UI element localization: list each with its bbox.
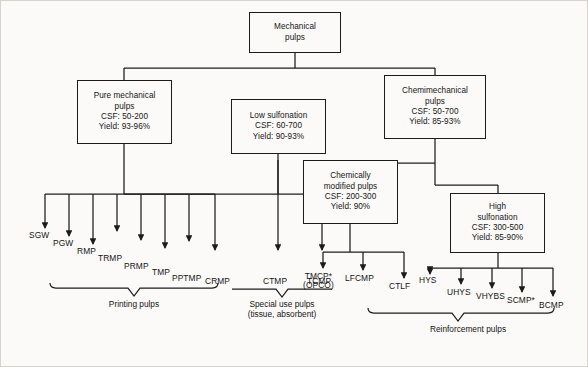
leaf-bcmp: BCMP (539, 301, 564, 311)
leaf-trmp: TRMP (98, 254, 122, 264)
node-chemically-modified-pulps: Chemically modified pulps CSF: 200-300 Y… (303, 160, 398, 224)
node-chemimechanical-line1: Chemimechanical (402, 86, 468, 96)
leaf-tmp: TMP (152, 268, 170, 278)
node-high-sulfonation: High sulfonation CSF: 300-500 Yield: 85-… (450, 193, 545, 253)
caption-special-use-line2: (tissue, absorbent) (248, 309, 317, 319)
caption-reinforcement-pulps: Reinforcement pulps (418, 324, 518, 334)
node-pure-mechanical-yield: Yield: 93-96% (99, 122, 150, 132)
figure-canvas: Mechanical pulps Pure mechanical pulps C… (0, 0, 588, 367)
leaf-tmcp-opco: TMCP* (OPCO) (303, 272, 334, 290)
leaf-ctlf: CTLF (389, 282, 410, 292)
node-pure-mechanical-line1: Pure mechanical (94, 91, 156, 101)
node-pure-mechanical-pulps: Pure mechanical pulps CSF: 50-200 Yield:… (77, 80, 172, 144)
node-pure-mechanical-line2: pulps (115, 102, 135, 112)
node-chemimechanical-pulps: Chemimechanical pulps CSF: 50-700 Yield:… (384, 75, 486, 139)
leaf-lfcmp: LFCMP (345, 274, 374, 284)
leaf-prmp: PRMP (124, 262, 149, 272)
node-chemically-modified-line2: modified pulps (324, 182, 378, 192)
leaf-tmcp-sublabel: (OPCO) (303, 280, 334, 290)
node-high-sulfonation-csf: CSF: 300-500 (472, 223, 524, 233)
node-chemimechanical-line2: pulps (425, 97, 445, 107)
node-chemimechanical-csf: CSF: 50-700 (412, 107, 459, 117)
node-high-sulfonation-line2: sulfonation (477, 213, 517, 223)
leaf-vhybs: VHYBS (476, 292, 505, 302)
leaf-sgw: SGW (29, 231, 49, 241)
node-low-sulfonation-yield: Yield: 90-93% (253, 132, 304, 142)
leaf-crmp: CRMP (205, 277, 230, 287)
node-mechanical-pulps-line1: Mechanical (274, 22, 316, 32)
node-low-sulfonation-csf: CSF: 60-700 (255, 121, 302, 131)
leaf-ctmp: CTMP (263, 277, 287, 287)
leaf-pgw: PGW (53, 239, 73, 249)
node-pure-mechanical-csf: CSF: 50-200 (101, 112, 148, 122)
leaf-scmp: SCMP* (507, 296, 535, 306)
leaf-pptmp: PPTMP (172, 274, 201, 284)
node-chemimechanical-yield: Yield: 85-93% (409, 117, 460, 127)
leaf-rmp: RMP (77, 247, 96, 257)
leaf-hys: HYS (419, 276, 437, 286)
caption-printing-pulps: Printing pulps (94, 299, 174, 309)
node-high-sulfonation-line1: High (489, 202, 506, 212)
caption-special-use-pulps: Special use pulps (tissue, absorbent) (232, 299, 332, 319)
node-chemically-modified-yield: Yield: 90% (331, 202, 370, 212)
leaf-uhys: UHYS (447, 288, 471, 298)
node-mechanical-pulps: Mechanical pulps (249, 12, 341, 53)
node-chemically-modified-csf: CSF: 200-300 (325, 192, 377, 202)
node-low-sulfonation-title: Low sulfonation (250, 111, 308, 121)
node-low-sulfonation: Low sulfonation CSF: 60-700 Yield: 90-93… (231, 99, 326, 154)
node-mechanical-pulps-line2: pulps (285, 33, 305, 43)
caption-special-use-line1: Special use pulps (249, 299, 314, 309)
node-high-sulfonation-yield: Yield: 85-90% (472, 233, 523, 243)
node-chemically-modified-line1: Chemically (330, 171, 371, 181)
